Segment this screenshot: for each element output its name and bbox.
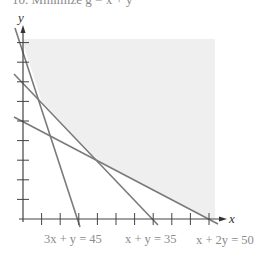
label-x-plus-2y-50: x + 2y = 50 — [196, 233, 254, 247]
y-axis-arrow-icon — [21, 25, 26, 33]
label-x-plus-y-35: x + y = 35 — [125, 232, 177, 246]
feasible-region — [23, 39, 215, 219]
x-axis-arrow-icon — [219, 217, 227, 222]
x-axis-label: x — [228, 211, 235, 226]
label-3x-plus-y-45: 3x + y = 45 — [44, 232, 102, 246]
y-axis-label: y — [16, 10, 24, 25]
linear-programming-graph: y x 3x + y = 45 x + y = 35 x + 2y = 50 — [0, 0, 271, 256]
